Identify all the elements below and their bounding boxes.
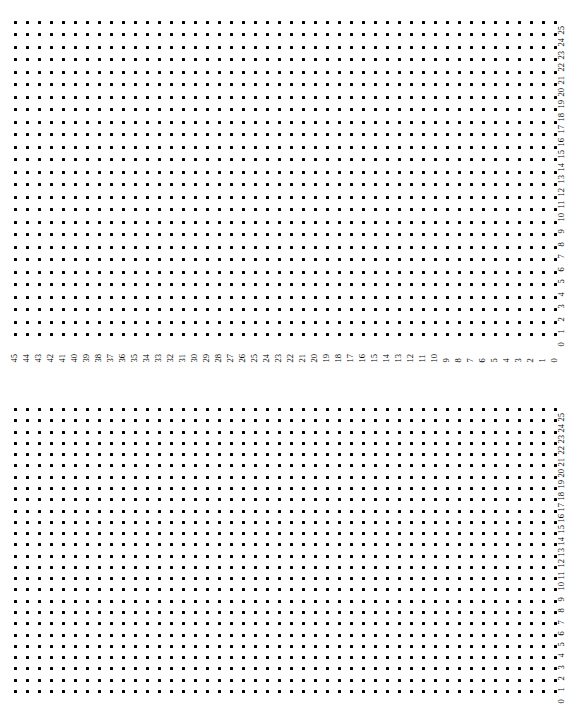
grid-dot — [362, 634, 365, 637]
grid-dot — [86, 83, 89, 86]
grid-dot — [146, 158, 149, 161]
grid-dot — [398, 442, 401, 445]
grid-dot — [410, 634, 413, 637]
grid-dot — [74, 667, 77, 670]
grid-dot — [374, 577, 377, 580]
grid-dot — [74, 208, 77, 211]
grid-dot — [422, 431, 425, 434]
grid-dot — [290, 71, 293, 74]
grid-dot — [518, 21, 521, 24]
grid-dot — [446, 431, 449, 434]
grid-dot — [302, 431, 305, 434]
grid-dot — [326, 33, 329, 36]
y-tick-label: 0 — [557, 342, 566, 346]
grid-dot — [458, 171, 461, 174]
grid-dot — [434, 158, 437, 161]
grid-dot — [266, 258, 269, 261]
grid-dot — [338, 221, 341, 224]
grid-dot — [122, 333, 125, 336]
grid-dot — [554, 158, 557, 161]
grid-dot — [86, 71, 89, 74]
grid-dot — [74, 183, 77, 186]
grid-dot — [422, 419, 425, 422]
grid-dot — [218, 543, 221, 546]
grid-dot — [326, 171, 329, 174]
grid-dot — [62, 171, 65, 174]
grid-dot — [434, 233, 437, 236]
grid-dot — [410, 453, 413, 456]
grid-dot — [254, 58, 257, 61]
grid-dot — [230, 208, 233, 211]
grid-dot — [422, 656, 425, 659]
grid-dot — [338, 431, 341, 434]
grid-dot — [26, 133, 29, 136]
grid-dot — [278, 208, 281, 211]
grid-dot — [182, 600, 185, 603]
grid-dot — [326, 419, 329, 422]
grid-dot — [266, 121, 269, 124]
grid-dot — [446, 543, 449, 546]
grid-dot — [134, 233, 137, 236]
grid-dot — [398, 121, 401, 124]
grid-dot — [290, 271, 293, 274]
grid-dot — [494, 146, 497, 149]
grid-dot — [122, 271, 125, 274]
grid-dot — [542, 679, 545, 682]
grid-dot — [362, 510, 365, 513]
grid-dot — [74, 487, 77, 490]
grid-dot — [506, 543, 509, 546]
grid-dot — [278, 600, 281, 603]
grid-dot — [422, 271, 425, 274]
grid-dot — [62, 33, 65, 36]
grid-dot — [386, 510, 389, 513]
grid-dot — [494, 498, 497, 501]
grid-dot — [422, 690, 425, 693]
grid-dot — [134, 96, 137, 99]
grid-dot — [62, 555, 65, 558]
grid-dot — [158, 566, 161, 569]
grid-dot — [470, 208, 473, 211]
dot-matrix-panel-top: 4544434241403938373635343332313029282726… — [0, 0, 584, 348]
grid-dot — [518, 634, 521, 637]
grid-dot — [74, 133, 77, 136]
grid-dot — [338, 487, 341, 490]
grid-dot — [542, 431, 545, 434]
grid-dot — [518, 196, 521, 199]
grid-dot — [350, 321, 353, 324]
grid-dot — [158, 577, 161, 580]
grid-dot — [410, 419, 413, 422]
grid-dot — [218, 258, 221, 261]
grid-dot — [50, 21, 53, 24]
grid-dot — [206, 464, 209, 467]
grid-dot — [110, 308, 113, 311]
grid-dot — [218, 588, 221, 591]
grid-dot — [50, 96, 53, 99]
grid-dot — [206, 679, 209, 682]
grid-dot — [326, 600, 329, 603]
grid-dot — [122, 258, 125, 261]
grid-dot — [206, 108, 209, 111]
grid-dot — [98, 171, 101, 174]
grid-dot — [206, 588, 209, 591]
grid-dot — [338, 308, 341, 311]
x-axis-ticks-bottom: 4544434241403938373635343332313029282726… — [0, 700, 584, 713]
grid-dot — [38, 611, 41, 614]
grid-dot — [422, 667, 425, 670]
grid-dot — [146, 566, 149, 569]
grid-dot — [530, 333, 533, 336]
grid-dot — [158, 667, 161, 670]
grid-dot — [518, 453, 521, 456]
y-tick-label: 21 — [557, 458, 566, 466]
grid-dot — [182, 321, 185, 324]
grid-dot — [506, 521, 509, 524]
grid-dot — [158, 258, 161, 261]
grid-dot — [398, 196, 401, 199]
grid-dot — [14, 158, 17, 161]
grid-dot — [14, 71, 17, 74]
grid-dot — [98, 532, 101, 535]
grid-dot — [554, 408, 557, 411]
grid-dot — [530, 196, 533, 199]
grid-dot — [146, 33, 149, 36]
grid-dot — [290, 46, 293, 49]
grid-dot — [290, 419, 293, 422]
